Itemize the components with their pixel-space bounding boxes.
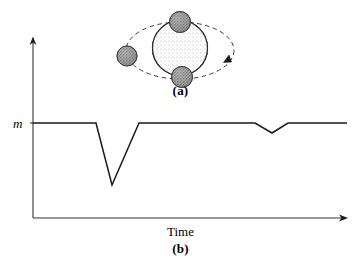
panel-b-caption: (b) [0, 241, 361, 257]
x-axis-title: Time [0, 224, 361, 240]
figure-container: m (a) Time (b) [0, 0, 361, 264]
orbit-direction-arrow-icon [224, 55, 232, 63]
light-curve-line [33, 123, 347, 185]
panel-a-diagram [117, 12, 234, 88]
planet-top [170, 12, 191, 33]
y-axis-value-label: m [13, 116, 22, 132]
planet-left [117, 46, 137, 66]
panel-a-caption: (a) [0, 83, 361, 99]
